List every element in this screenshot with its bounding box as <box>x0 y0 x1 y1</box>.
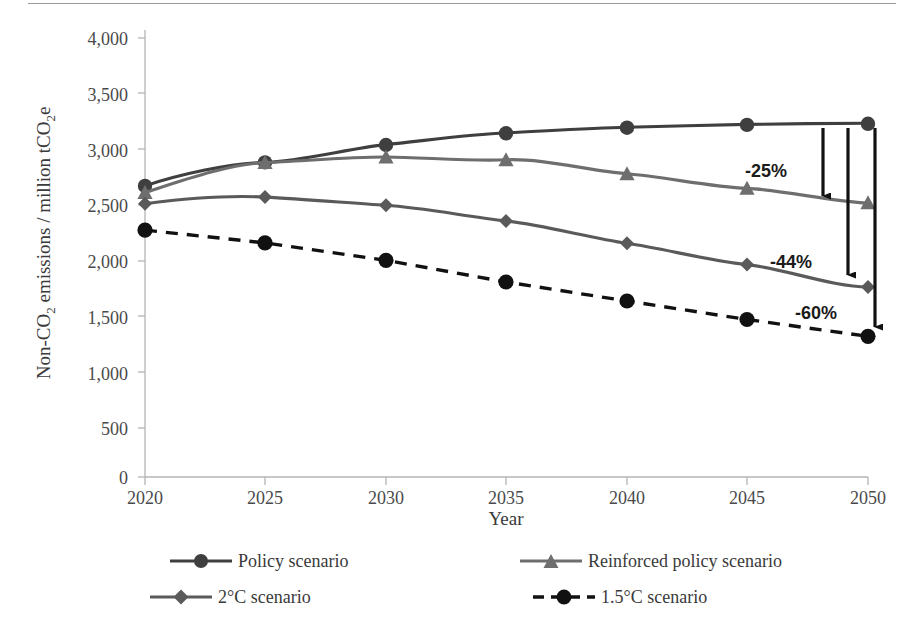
y-tick-label: 500 <box>58 420 128 438</box>
annotation-minus-60: -60% <box>795 303 837 324</box>
data-point <box>740 258 754 272</box>
y-tick-label: 4,000 <box>58 30 128 48</box>
chart-axes <box>145 30 868 477</box>
y-axis-title-part1: Non-CO <box>33 314 54 379</box>
x-tick-label: 2050 <box>828 489 904 507</box>
y-tick-label: 1,500 <box>58 309 128 327</box>
annotation-minus-25: -25% <box>745 161 787 182</box>
data-point <box>620 236 634 250</box>
legend-label: 2°C scenario <box>218 587 311 608</box>
line-chart <box>0 0 904 634</box>
x-tick-label: 2030 <box>346 489 426 507</box>
y-axis-ticks <box>138 38 145 477</box>
data-point <box>739 312 754 327</box>
y-tick-label: 2,500 <box>58 197 128 215</box>
figure-container: 4,000 3,500 3,000 2,500 2,000 1,500 1,00… <box>0 0 904 634</box>
y-tick-label: 3,500 <box>58 86 128 104</box>
legend-item-policy-scenario[interactable]: Policy scenario <box>170 548 348 574</box>
y-tick-label: 1,000 <box>58 365 128 383</box>
data-point <box>740 118 754 132</box>
y-axis-title-sub1: 2 <box>43 307 58 314</box>
y-axis-title: Non-CO2 emissions / million tCO2e <box>33 93 59 393</box>
x-tick-label: 2040 <box>587 489 667 507</box>
data-point <box>257 235 272 250</box>
annotation-arrows <box>823 128 875 327</box>
data-point <box>137 223 152 238</box>
data-point <box>498 274 513 289</box>
legend-label: Reinforced policy scenario <box>588 551 782 572</box>
annotation-minus-44: -44% <box>770 252 812 273</box>
legend-item-reinforced-policy-scenario[interactable]: Reinforced policy scenario <box>520 548 782 574</box>
series-markers <box>137 223 875 344</box>
data-point <box>378 253 393 268</box>
legend-swatch-2c-scenario <box>150 586 212 608</box>
legend-swatch-reinforced-policy-scenario <box>520 550 582 572</box>
y-tick-label: 2,000 <box>58 253 128 271</box>
y-axis-title-part2: emissions / million tCO <box>33 121 54 307</box>
y-tick-label: 3,000 <box>58 142 128 160</box>
x-tick-label: 2045 <box>707 489 787 507</box>
y-tick-label: 0 <box>58 469 128 487</box>
data-point <box>620 121 634 135</box>
data-point <box>860 329 875 344</box>
legend-item-1-5c-scenario[interactable]: 1.5°C scenario <box>533 584 707 610</box>
x-tick-label: 2035 <box>466 489 546 507</box>
x-tick-label: 2025 <box>225 489 305 507</box>
y-axis-title-part3: e <box>33 107 54 115</box>
data-point <box>861 280 875 294</box>
data-point <box>258 190 272 204</box>
legend-swatch-1-5c-scenario <box>533 586 595 608</box>
legend-item-2c-scenario[interactable]: 2°C scenario <box>150 584 311 610</box>
legend-label: Policy scenario <box>238 551 348 572</box>
y-axis-title-sub2: 2 <box>43 115 58 122</box>
data-point <box>499 126 513 140</box>
chart-legend: Policy scenario Reinforced policy scenar… <box>150 548 890 620</box>
data-point <box>619 293 634 308</box>
x-axis-ticks <box>145 477 868 485</box>
data-point <box>499 214 513 228</box>
data-point <box>379 198 393 212</box>
data-point <box>861 117 875 131</box>
legend-label: 1.5°C scenario <box>601 587 707 608</box>
legend-swatch-policy-scenario <box>170 550 232 572</box>
series-1-5c-scenario <box>137 223 875 344</box>
x-axis-title: Year <box>145 508 867 530</box>
x-tick-label: 2020 <box>105 489 185 507</box>
